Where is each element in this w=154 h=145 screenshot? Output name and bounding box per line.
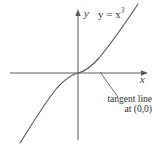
equation-text: y = x [98, 8, 121, 20]
equation-label: y = x3 [98, 7, 124, 20]
tangent-line-annotation: tangent lineat (0,0) [74, 95, 152, 115]
x-axis-label: x [140, 74, 145, 86]
annotation-line-1: tangent line [107, 94, 152, 104]
y-axis-arrow-icon [75, 9, 80, 16]
plot-canvas [0, 0, 154, 145]
cubic-function-tangent-line-figure: y = x3 y x tangent lineat (0,0) [0, 0, 154, 145]
annotation-line-2: at (0,0) [74, 105, 152, 115]
y-axis-label: y [84, 8, 89, 20]
equation-exponent: 3 [121, 6, 125, 15]
y-axis [75, 9, 80, 140]
